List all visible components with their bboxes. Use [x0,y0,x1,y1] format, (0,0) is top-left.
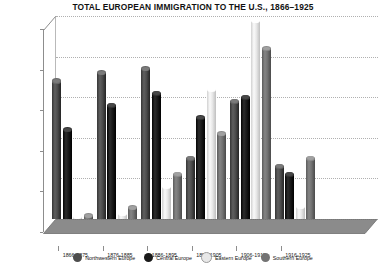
bar [230,101,239,219]
bar [296,207,305,219]
y-axis-tick [40,70,43,71]
bar [52,81,61,219]
bar-body [97,73,106,219]
bar [63,130,72,219]
bar-body [107,105,116,219]
chart-container: TOTAL EUROPEAN IMMIGRATION TO THE U.S., … [0,0,386,272]
legend-label: Eastern Europe [215,255,252,261]
bar [262,48,271,219]
bar-body [275,166,284,219]
legend-item[interactable]: Eastern Europe [201,252,252,263]
bar [84,216,93,219]
legend-swatch-icon [73,253,82,262]
bar [306,158,315,219]
bar [285,174,294,219]
bar-cap-highlight [208,87,215,91]
gridline [56,16,378,17]
y-axis-line [43,29,44,232]
bar [173,174,182,219]
bar [275,166,284,219]
bar-body [186,158,195,219]
bar-cap-highlight [129,206,136,210]
bar [207,89,216,219]
chart-floor [43,219,377,233]
bar-body [207,89,216,219]
bar-body [63,130,72,219]
bar-body [241,97,250,219]
legend-item[interactable]: Southern Europe [261,253,313,262]
bar-cap-highlight [218,132,225,136]
y-axis-tick [40,29,43,30]
bar-cap-highlight [53,79,60,83]
y-axis-tick [40,232,43,233]
bar-cap-highlight [64,128,71,132]
bar [152,93,161,219]
legend-swatch-icon [144,253,153,262]
legend-swatch-icon [261,253,270,262]
bar-body [196,118,205,220]
bar-cap-highlight [142,67,149,71]
bar [73,216,82,219]
bar-body [152,93,161,219]
bar-cap-highlight [297,205,304,209]
plot-area: 2,500,0002,000,0001,500,0001,000,000500,… [43,16,377,232]
bar [107,105,116,219]
x-axis-tick [236,246,237,251]
bar [241,97,250,219]
bar-body [306,158,315,219]
bar [217,134,226,219]
bar-cap-highlight [119,211,126,215]
bar-cap-highlight [242,95,249,99]
bar [186,158,195,219]
legend-item[interactable]: Central Europe [144,253,192,262]
bar [118,213,127,219]
x-axis-tick [281,246,282,251]
bar-body [285,174,294,219]
bar-cap-highlight [187,156,194,160]
y-axis-tick [40,151,43,152]
bar-body [230,101,239,219]
legend-swatch-icon [201,252,212,263]
bar-body [262,48,271,219]
bar-cap-highlight [276,164,283,168]
bar [251,20,260,219]
legend-item[interactable]: Northwestern Europe [73,253,135,262]
bar-body [173,174,182,219]
x-axis-tick [103,246,104,251]
bar-cap-highlight [153,91,160,95]
bar [141,69,150,219]
x-axis-tick [58,246,59,251]
y-axis-tick [40,191,43,192]
chart-title: TOTAL EUROPEAN IMMIGRATION TO THE U.S., … [0,2,386,12]
bar [162,187,171,219]
bar-cap-highlight [85,214,92,218]
bar-body [217,134,226,219]
legend-label: Southern Europe [273,255,313,261]
bar-cap-highlight [98,71,105,75]
x-axis-tick [147,246,148,251]
legend-label: Central Europe [156,255,192,261]
bar [97,73,106,219]
legend-label: Northwestern Europe [85,255,135,261]
bar-body [141,69,150,219]
gridline [56,57,378,58]
axis-diagonal [43,16,56,30]
chart-legend: Northwestern EuropeCentral EuropeEastern… [0,252,386,263]
bar [128,208,137,219]
bar-body [162,187,171,219]
x-axis-tick [192,246,193,251]
y-axis-tick [40,110,43,111]
bar-body [251,20,260,219]
bar [196,118,205,220]
bar-body [52,81,61,219]
